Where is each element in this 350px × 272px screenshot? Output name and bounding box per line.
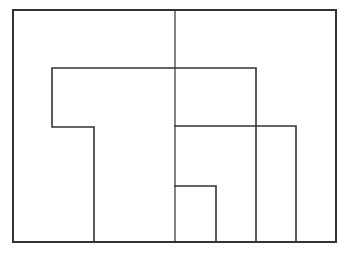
small-bracket-line	[175, 186, 216, 242]
partition-diagram	[0, 0, 350, 272]
middle-bracket-line	[175, 126, 296, 242]
segment-group	[52, 10, 296, 242]
upper-l-shape-line	[52, 68, 256, 242]
